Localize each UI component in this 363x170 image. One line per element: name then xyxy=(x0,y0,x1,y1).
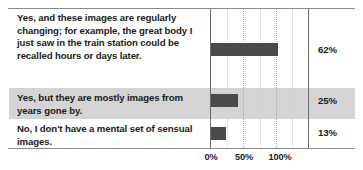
horizontal-bar-chart: Yes, and these images are regularly chan… xyxy=(0,0,363,170)
gridline-minor-3 xyxy=(292,9,293,148)
bar-3 xyxy=(211,127,226,140)
value-column-divider xyxy=(308,9,309,148)
tick-label-100pct: 100% xyxy=(268,152,291,162)
bar-1 xyxy=(211,43,278,56)
chart-top-rule xyxy=(8,8,355,9)
gridline-100pct xyxy=(276,9,277,148)
gridline-50pct xyxy=(243,9,244,148)
gridline-minor-1 xyxy=(227,9,228,148)
category-label-3: No, I don't have a mental set of sensual… xyxy=(17,123,197,148)
gridline-minor-2 xyxy=(260,9,261,148)
value-label-2: 25% xyxy=(318,95,358,106)
value-label-1: 62% xyxy=(318,44,358,55)
bar-2 xyxy=(211,94,238,107)
tick-label-0pct: 0% xyxy=(204,152,217,162)
value-label-3: 13% xyxy=(318,127,358,138)
category-label-2: Yes, but they are mostly images from yea… xyxy=(17,92,197,117)
tick-label-50pct: 50% xyxy=(235,152,253,162)
category-label-1: Yes, and these images are regularly chan… xyxy=(17,12,197,62)
